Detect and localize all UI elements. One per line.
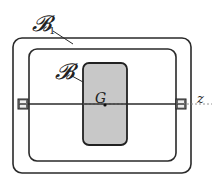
diagram-canvas: 𝓑 1 𝓑 G z (0, 0, 224, 190)
right-bearing (176, 99, 186, 109)
left-bearing (18, 99, 28, 109)
label-b1-subscript: 1 (49, 25, 55, 36)
label-b: 𝓑 (55, 59, 79, 84)
label-z-axis: z (196, 91, 204, 106)
label-g: G (95, 90, 106, 106)
